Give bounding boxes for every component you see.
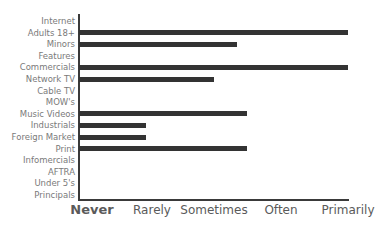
y-axis-label: Print [55,144,75,154]
y-axis-label: Foreign Market [12,132,75,142]
x-axis-label: Often [264,203,297,217]
y-axis-label: Minors [47,39,75,49]
bar [79,42,237,47]
x-axis-label: Primarily [321,203,374,217]
y-axis-label: Network TV [26,74,75,84]
y-axis-label: Commercials [20,62,75,72]
y-axis-label: Principals [34,190,75,200]
bar [79,65,348,70]
bar [79,77,214,82]
x-axis-label: Rarely [133,203,171,217]
bar [79,123,146,128]
bar [79,30,348,35]
horizontal-bar-chart: InternetAdults 18+MinorsFeaturesCommerci… [0,0,385,231]
y-axis-label: AFTRA [48,167,75,177]
y-axis-label: Features [38,51,75,61]
y-axis-label: MOW's [46,97,75,107]
y-axis-label: Cable TV [37,86,75,96]
bar [79,146,247,151]
y-axis-label: Industrials [31,120,75,130]
bar [79,135,146,140]
bar [79,111,247,116]
x-axis-line [78,199,349,201]
y-axis-label: Music Videos [20,109,75,119]
y-axis-label: Adults 18+ [28,28,75,38]
x-axis-label: Sometimes [180,203,247,217]
y-axis-label: Internet [41,16,75,26]
y-axis-label: Under 5's [34,178,75,188]
y-axis-label: Infomercials [23,155,75,165]
x-axis-label: Never [70,203,113,217]
